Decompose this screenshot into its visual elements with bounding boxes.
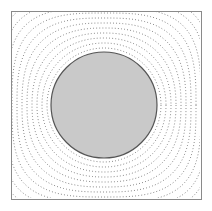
inclusion-circle (51, 52, 157, 158)
figure-root (0, 0, 212, 211)
contour-plot-svg (0, 0, 212, 211)
